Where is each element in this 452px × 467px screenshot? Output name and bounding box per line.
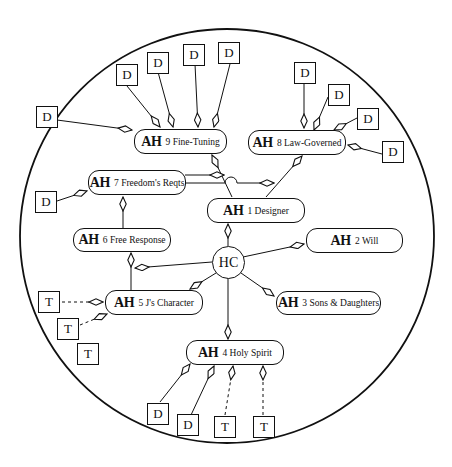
evidence-d-box[interactable]: D bbox=[183, 44, 205, 66]
evidence-d-box[interactable]: D bbox=[357, 108, 379, 130]
node-label: 2 Will bbox=[355, 236, 378, 246]
evidence-t-box[interactable]: T bbox=[214, 416, 236, 438]
node-sons-daughters[interactable]: AH 3 Sons & Daughters bbox=[276, 291, 381, 315]
ah-prefix: AH bbox=[198, 345, 218, 361]
evidence-d-box[interactable]: D bbox=[294, 62, 316, 84]
node-label: 1 Designer bbox=[247, 206, 288, 216]
evidence-d-box[interactable]: D bbox=[328, 84, 350, 106]
ah-prefix: AH bbox=[223, 203, 243, 219]
evidence-t-box[interactable]: T bbox=[38, 291, 60, 313]
node-js-character[interactable]: AH 5 J's Character bbox=[105, 290, 203, 315]
node-label: 4 Holy Spirit bbox=[222, 348, 272, 358]
ah-prefix: AH bbox=[90, 175, 110, 191]
evidence-t-box[interactable]: T bbox=[57, 318, 79, 340]
center-hc-node[interactable]: HC bbox=[212, 246, 245, 279]
node-label: 9 Fine-Tuning bbox=[166, 137, 220, 147]
ah-prefix: AH bbox=[78, 232, 98, 248]
evidence-d-box[interactable]: D bbox=[35, 191, 57, 213]
node-will[interactable]: AH 2 Will bbox=[306, 228, 403, 253]
ah-prefix: AH bbox=[114, 295, 134, 311]
evidence-t-box[interactable]: T bbox=[77, 343, 99, 365]
node-holy-spirit[interactable]: AH 4 Holy Spirit bbox=[186, 340, 284, 365]
ah-prefix: AH bbox=[278, 295, 298, 311]
ah-prefix: AH bbox=[331, 233, 351, 249]
node-law-governed[interactable]: AH 8 Law-Governed bbox=[248, 130, 346, 155]
node-label: 6 Free Response bbox=[103, 235, 166, 245]
evidence-d-box[interactable]: D bbox=[147, 52, 169, 74]
node-freedoms-reqts[interactable]: AH 7 Freedom's Reqts bbox=[88, 170, 186, 195]
ah-prefix: AH bbox=[252, 135, 272, 151]
evidence-d-box[interactable]: D bbox=[177, 414, 199, 436]
evidence-d-box[interactable]: D bbox=[116, 64, 138, 86]
node-fine-tuning[interactable]: AH 9 Fine-Tuning bbox=[134, 129, 227, 154]
node-label: 5 J's Character bbox=[138, 298, 194, 308]
evidence-d-box[interactable]: D bbox=[382, 141, 404, 163]
node-label: 7 Freedom's Reqts bbox=[114, 178, 184, 188]
evidence-t-box[interactable]: T bbox=[253, 416, 275, 438]
node-designer[interactable]: AH 1 Designer bbox=[207, 198, 305, 223]
ah-prefix: AH bbox=[141, 134, 161, 150]
evidence-d-box[interactable]: D bbox=[36, 106, 58, 128]
evidence-d-box[interactable]: D bbox=[218, 42, 240, 64]
node-label: 8 Law-Governed bbox=[277, 138, 342, 148]
node-label: 3 Sons & Daughters bbox=[302, 298, 379, 308]
evidence-d-box[interactable]: D bbox=[147, 403, 169, 425]
node-free-response[interactable]: AH 6 Free Response bbox=[73, 228, 171, 252]
